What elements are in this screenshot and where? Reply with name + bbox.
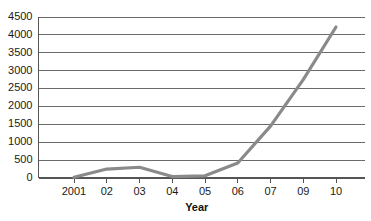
y-axis-tick-label: 2500 (8, 81, 32, 93)
y-axis-tick-label: 3500 (8, 46, 32, 58)
x-axis-tick-label: 09 (297, 185, 309, 197)
line-chart: 050010001500200025003000350040004500 200… (0, 0, 371, 221)
y-axis-tick-label: 4500 (8, 10, 32, 22)
x-axis-tick-label: 2001 (62, 185, 86, 197)
y-axis-tick-label: 1000 (8, 135, 32, 147)
y-axis-tick-label: 3000 (8, 64, 32, 76)
x-axis-tick-label-group: 20010203040506070910 (62, 185, 342, 197)
y-axis-tick-label: 1500 (8, 117, 32, 129)
x-axis-tick-label: 05 (199, 185, 211, 197)
y-axis-tick-label: 500 (14, 153, 32, 165)
data-series-line (74, 27, 336, 177)
x-axis-tick-mark-group (74, 178, 336, 183)
x-axis-tick-label: 04 (166, 185, 178, 197)
y-axis-tick-label: 2000 (8, 99, 32, 111)
x-axis-tick-label: 07 (264, 185, 276, 197)
y-axis-tick-label-group: 050010001500200025003000350040004500 (8, 10, 32, 183)
gridline-group (39, 17, 366, 178)
y-axis-tick-label: 4000 (8, 28, 32, 40)
x-axis-tick-label: 03 (133, 185, 145, 197)
x-axis-tick-label: 10 (330, 185, 342, 197)
x-axis-tick-label: 02 (101, 185, 113, 197)
chart-canvas: 050010001500200025003000350040004500 200… (0, 0, 371, 221)
x-axis-title: Year (185, 201, 209, 213)
y-axis-tick-label: 0 (26, 171, 32, 183)
x-axis-tick-label: 06 (232, 185, 244, 197)
